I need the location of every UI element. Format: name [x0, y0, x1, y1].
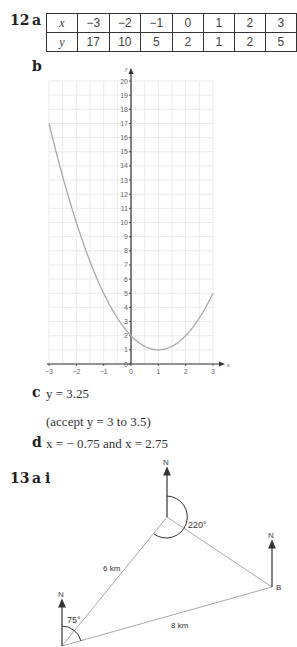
answer-d: x = − 0.75 and x = 2.75: [46, 436, 168, 452]
svg-text:17: 17: [120, 120, 128, 127]
svg-text:−2: −2: [72, 368, 80, 375]
svg-text:15: 15: [120, 148, 128, 155]
north-arrow-icon: [164, 468, 170, 475]
svg-text:18: 18: [120, 106, 128, 113]
part-i-label: i: [45, 470, 50, 486]
north-label: N: [268, 531, 274, 540]
svg-text:0: 0: [124, 361, 128, 368]
svg-text:14: 14: [120, 162, 128, 169]
svg-text:−1: −1: [100, 368, 108, 375]
angle-arc-220: [154, 496, 187, 538]
svg-text:1: 1: [124, 346, 128, 353]
svg-text:0: 0: [129, 368, 133, 375]
svg-text:13: 13: [120, 177, 128, 184]
side-label-8km: 8 km: [171, 621, 188, 630]
svg-text:6: 6: [124, 276, 128, 283]
side-label-6km: 6 km: [103, 564, 120, 573]
north-label: N: [58, 590, 64, 599]
part-c-label: c: [32, 384, 41, 400]
question-13-number: 13: [10, 470, 29, 486]
svg-text:1: 1: [156, 368, 160, 375]
svg-text:16: 16: [120, 134, 128, 141]
point-b-label: B: [276, 583, 281, 592]
svg-text:20: 20: [120, 78, 128, 85]
part-d-label: d: [32, 434, 42, 450]
north-arrow-icon: [269, 541, 275, 548]
svg-text:3: 3: [124, 318, 128, 325]
svg-text:19: 19: [120, 92, 128, 99]
svg-text:9: 9: [124, 233, 128, 240]
svg-text:8: 8: [124, 247, 128, 254]
angle-arc-75: [62, 626, 81, 641]
svg-text:−3: −3: [45, 368, 53, 375]
svg-text:4: 4: [124, 304, 128, 311]
svg-text:11: 11: [121, 205, 128, 212]
y-axis-arrow-icon: [129, 68, 134, 74]
svg-text:y: y: [124, 66, 128, 72]
svg-text:2: 2: [184, 368, 188, 375]
quadratic-graph: yx01234567891011121314151617181920−3−2−1…: [0, 0, 297, 385]
x-axis-arrow-icon: [219, 362, 225, 367]
north-label: N: [163, 458, 169, 467]
svg-text:10: 10: [120, 219, 128, 226]
line-top-to-b: [167, 517, 272, 587]
svg-text:5: 5: [124, 290, 128, 297]
svg-text:x: x: [226, 362, 230, 368]
angle-label-75: 75°: [67, 615, 81, 625]
line-a-to-b: [62, 587, 272, 646]
answer-c: y = 3.25: [46, 386, 89, 402]
svg-text:2: 2: [124, 332, 128, 339]
svg-text:3: 3: [211, 368, 215, 375]
angle-label-220: 220°: [188, 520, 207, 530]
svg-text:7: 7: [124, 261, 128, 268]
answer-c-note: (accept y = 3 to 3.5): [46, 414, 151, 430]
line-a-to-top: [62, 517, 167, 646]
svg-text:12: 12: [120, 191, 128, 198]
part-a-label: a: [32, 470, 41, 486]
north-arrow-icon: [59, 600, 65, 607]
